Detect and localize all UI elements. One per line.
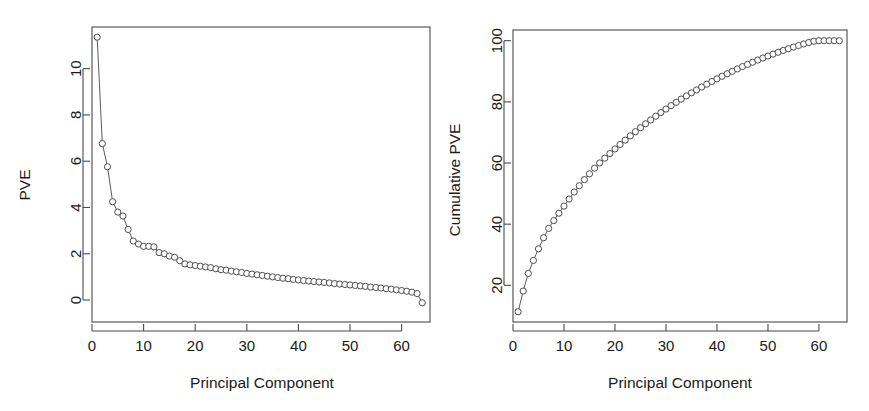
data-point: [556, 210, 562, 216]
data-point: [520, 288, 526, 294]
data-point: [530, 257, 536, 263]
cumulative-pve-x-tick-label: 60: [811, 337, 828, 354]
pve-series-markers: [94, 34, 425, 306]
pve-x-axis: 0102030405060: [88, 324, 410, 354]
data-point: [414, 290, 420, 296]
pve-chart-svg: PVE Principal Component 0246810 01020304…: [0, 0, 435, 411]
pve-x-tick-label: 50: [342, 337, 359, 354]
pve-panel: PVE Principal Component 0246810 01020304…: [0, 0, 435, 411]
data-point: [591, 165, 597, 171]
pve-y-tick-label: 2: [68, 250, 85, 258]
cumulative-pve-chart-svg: Cumulative PVE Principal Component 20406…: [435, 0, 869, 411]
pve-x-axis-title: Principal Component: [190, 374, 335, 391]
cumulative-pve-y-tick-label: 80: [489, 94, 506, 111]
pve-y-tick-label: 8: [68, 111, 85, 119]
data-point: [566, 196, 572, 202]
pve-y-tick-label: 4: [68, 203, 85, 211]
cumulative-pve-x-tick-label: 40: [709, 337, 726, 354]
cumulative-pve-plot-box: [513, 30, 847, 322]
cumulative-pve-y-tick-label: 40: [489, 216, 506, 233]
data-point: [515, 309, 521, 315]
data-point: [597, 160, 603, 166]
pve-x-tick-label: 10: [135, 337, 152, 354]
data-point: [120, 213, 126, 219]
cumulative-pve-y-tick-label: 60: [489, 155, 506, 172]
data-point: [581, 177, 587, 183]
pve-y-axis: 0246810: [68, 60, 91, 304]
cumulative-pve-x-tick-label: 50: [760, 337, 777, 354]
cumulative-pve-y-axis-title: Cumulative PVE: [446, 124, 463, 237]
cumulative-pve-x-tick-label: 0: [509, 337, 517, 354]
pve-x-tick-label: 60: [393, 337, 410, 354]
cumulative-pve-x-tick-label: 30: [658, 337, 675, 354]
data-point: [110, 199, 116, 205]
data-point: [551, 218, 557, 224]
cumulative-pve-y-axis: 20406080100: [489, 28, 512, 293]
data-point: [104, 164, 110, 170]
data-point: [612, 146, 618, 152]
data-point: [419, 300, 425, 306]
data-point: [546, 225, 552, 231]
data-point: [151, 244, 157, 250]
figure-root: PVE Principal Component 0246810 01020304…: [0, 0, 869, 411]
pve-series-line: [97, 37, 422, 303]
cumulative-pve-panel: Cumulative PVE Principal Component 20406…: [435, 0, 869, 411]
data-point: [125, 226, 131, 232]
pve-y-tick-label: 10: [68, 60, 85, 77]
data-point: [94, 34, 100, 40]
data-point: [99, 141, 105, 147]
data-point: [571, 189, 577, 195]
data-point: [586, 171, 592, 177]
data-point: [602, 155, 608, 161]
data-point: [541, 235, 547, 241]
data-point: [607, 150, 613, 156]
cumulative-pve-x-axis-title: Principal Component: [608, 374, 753, 391]
pve-y-tick-label: 0: [68, 296, 85, 304]
pve-y-tick-label: 6: [68, 157, 85, 165]
cumulative-pve-series-line: [518, 41, 839, 312]
cumulative-pve-x-axis: 0102030405060: [509, 324, 827, 354]
pve-x-tick-label: 40: [290, 337, 307, 354]
cumulative-pve-x-tick-label: 20: [607, 337, 624, 354]
data-point: [836, 38, 842, 44]
data-point: [576, 183, 582, 189]
data-point: [525, 270, 531, 276]
pve-x-tick-label: 20: [187, 337, 204, 354]
pve-y-axis-title: PVE: [16, 169, 33, 200]
cumulative-pve-series-markers: [515, 38, 842, 315]
cumulative-pve-x-tick-label: 10: [556, 337, 573, 354]
data-point: [622, 137, 628, 143]
cumulative-pve-y-tick-label: 100: [489, 28, 506, 53]
data-point: [535, 246, 541, 252]
pve-x-tick-label: 30: [238, 337, 255, 354]
data-point: [561, 203, 567, 209]
pve-x-tick-label: 0: [88, 337, 96, 354]
data-point: [617, 141, 623, 147]
cumulative-pve-y-tick-label: 20: [489, 277, 506, 294]
